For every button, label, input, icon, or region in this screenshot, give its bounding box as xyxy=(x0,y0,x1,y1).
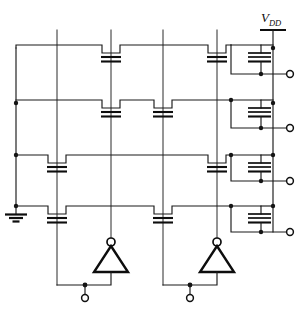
output-terminal-2[interactable] xyxy=(287,125,294,132)
vdd-label: VDD xyxy=(261,11,281,27)
output-terminal-1[interactable] xyxy=(287,71,294,78)
row-4-bit-line[interactable] xyxy=(16,206,231,214)
junction-dot-load-row-1 xyxy=(259,72,263,76)
junction-dot-drain-row-4 xyxy=(229,204,233,208)
load-transistor-row-2[interactable] xyxy=(229,98,290,130)
row-3-group xyxy=(16,153,293,185)
load-transistor-row-3[interactable] xyxy=(229,153,290,183)
output-terminal-4[interactable] xyxy=(287,229,294,236)
junction-dot-left-row2 xyxy=(14,101,18,105)
ground-rail-group xyxy=(14,48,18,208)
row-2-bit-line[interactable] xyxy=(16,100,231,108)
vdd-label-main: V xyxy=(261,10,269,25)
load-transistor-row-1[interactable] xyxy=(231,45,290,76)
load-drain-path-row-1 xyxy=(231,45,261,53)
junction-dot-vdd-row2 xyxy=(271,101,275,105)
inverter-left[interactable] xyxy=(57,238,128,301)
row-1-group xyxy=(16,45,293,77)
input-terminal-right[interactable] xyxy=(187,295,194,302)
load-drain-path-row-4 xyxy=(231,206,261,214)
junction-dot-drain-row-2 xyxy=(229,98,233,102)
load-drain-path-row-3 xyxy=(231,155,261,163)
vdd-label-subscript: DD xyxy=(269,18,281,28)
junction-dot-load-row-2 xyxy=(259,126,263,130)
inverter-right[interactable] xyxy=(163,238,234,301)
output-terminal-3[interactable] xyxy=(287,178,294,185)
ground-symbol xyxy=(5,206,27,222)
load-transistor-row-4[interactable] xyxy=(229,204,290,234)
load-drain-path-row-2 xyxy=(231,100,261,108)
row-3-bit-line[interactable] xyxy=(16,155,231,163)
junction-dot-drain-row-3 xyxy=(229,153,233,157)
row-1-bit-line[interactable] xyxy=(16,45,231,53)
junction-dot-load-row-4 xyxy=(259,230,263,234)
input-terminal-left[interactable] xyxy=(82,295,89,302)
row-4-group xyxy=(16,204,293,236)
word-line-group xyxy=(57,30,217,285)
circuit-diagram: VDD xyxy=(0,0,308,309)
row-2-group xyxy=(16,98,293,132)
inverter-right-triangle-icon xyxy=(200,246,234,272)
junction-dot-load-row-3 xyxy=(259,179,263,183)
junction-dot-vdd-row1 xyxy=(271,46,275,50)
vdd-rail-group xyxy=(260,30,286,232)
inverter-left-triangle-icon xyxy=(94,246,128,272)
schematic-canvas xyxy=(0,0,308,309)
